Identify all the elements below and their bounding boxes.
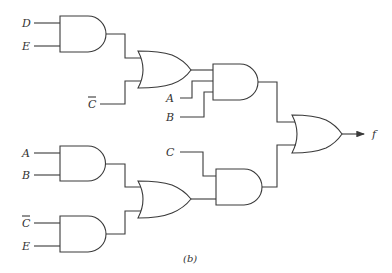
wire-and1-to-or1 xyxy=(106,34,142,58)
input-label-b-bottom: B xyxy=(21,169,30,182)
wire-cbar-to-or1 xyxy=(100,81,142,104)
and-gate-5 xyxy=(216,169,262,205)
input-label-e: E xyxy=(21,40,30,53)
or-gate-2 xyxy=(138,181,191,218)
and-gate-4 xyxy=(60,216,106,252)
input-label-a-top: A xyxy=(165,92,174,105)
wire-and2-to-or-final xyxy=(258,82,296,122)
or-gate-1 xyxy=(138,51,191,88)
input-label-c-bar: C xyxy=(88,98,97,111)
and-gate-2 xyxy=(213,64,258,100)
input-label-c-bar-bottom: C xyxy=(22,217,31,230)
or-gate-final xyxy=(292,115,342,153)
and-gate-1 xyxy=(60,16,106,52)
figure-caption: (b) xyxy=(183,253,197,264)
input-label-d: D xyxy=(21,17,31,30)
wire-and4-to-or2 xyxy=(106,211,142,234)
input-label-a-bottom: A xyxy=(21,147,30,160)
wire-c-to-and5 xyxy=(180,152,216,176)
input-label-c: C xyxy=(166,146,175,159)
output-label-f: f xyxy=(371,128,378,141)
wire-and3-to-or2 xyxy=(105,164,142,187)
logic-circuit-diagram: D E C A B f A B C E C (b) xyxy=(0,0,392,273)
wire-a-to-and2 xyxy=(180,81,213,98)
input-label-b-top: B xyxy=(165,111,174,124)
and-gate-3 xyxy=(60,146,106,181)
wire-b-to-and2 xyxy=(180,92,213,117)
input-label-e-bottom: E xyxy=(21,240,30,253)
wire-and5-to-or-final xyxy=(262,145,296,187)
